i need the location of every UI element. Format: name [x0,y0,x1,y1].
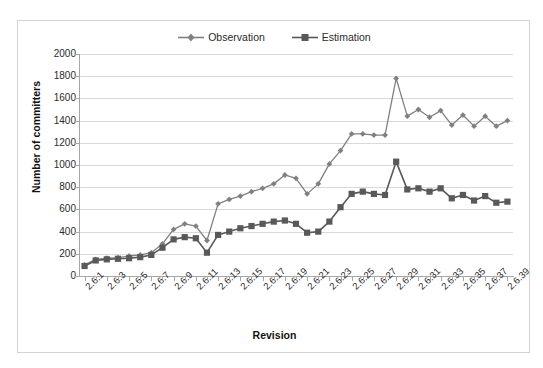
y-tick-label: 400 [36,227,76,237]
data-point [460,192,466,198]
data-point [326,219,332,225]
data-point [137,254,143,260]
series-estimation [81,159,510,270]
data-point [404,186,410,192]
y-tick-label: 200 [36,249,76,259]
x-tick-mark [274,277,275,281]
chart-legend: Observation Estimation [18,29,531,43]
data-point [382,132,388,138]
square-marker-icon [292,32,318,41]
x-tick-mark [430,277,431,281]
data-point [81,263,87,269]
data-point [182,221,188,227]
data-point [404,113,410,119]
x-tick-mark [474,277,475,281]
legend-item-estimation: Estimation [292,30,371,43]
data-point [482,193,488,199]
x-tick-mark [318,277,319,281]
data-point [426,189,432,195]
data-point [371,191,377,197]
x-tick-mark [229,277,230,281]
data-point [504,199,510,205]
data-point [371,132,377,138]
x-tick-mark [185,277,186,281]
x-axis-title: Revision [18,329,531,341]
y-tick-label: 2000 [36,49,76,59]
data-point [415,185,421,191]
x-tick-mark [296,277,297,281]
data-point [226,229,232,235]
x-tick-mark [341,277,342,281]
data-point [148,252,154,258]
y-tick-label: 1200 [36,138,76,148]
y-tick-label: 1000 [36,160,76,170]
data-point [271,219,277,225]
y-tick-label: 1800 [36,71,76,81]
data-point [170,236,176,242]
data-point [360,189,366,195]
data-point [360,131,366,137]
y-tick-label: 600 [36,204,76,214]
data-point [159,245,165,251]
data-point [282,217,288,223]
data-point [471,197,477,203]
data-point [393,76,399,82]
data-point [349,191,355,197]
data-point [315,229,321,235]
data-point [237,225,243,231]
chart-frame: Observation Estimation 02004006008001000… [17,20,530,353]
data-point [449,195,455,201]
x-tick-mark [496,277,497,281]
chart-screenshot: Observation Estimation 02004006008001000… [0,0,543,368]
data-point [304,230,310,236]
x-tick-mark [140,277,141,281]
data-point [182,234,188,240]
data-point [215,232,221,238]
y-tick-label: 1600 [36,93,76,103]
x-tick-mark [385,277,386,281]
x-tick-mark [452,277,453,281]
data-point [93,257,99,263]
y-tick-label: 0 [36,271,76,281]
data-point [260,185,266,191]
data-point [193,235,199,241]
data-point [293,221,299,227]
x-tick-mark [162,277,163,281]
legend-label-observation: Observation [208,31,265,43]
data-point [249,189,255,195]
data-point [226,197,232,203]
data-point [115,256,121,262]
data-point [204,250,210,256]
data-point [493,200,499,206]
data-point [215,201,221,207]
y-tick-label: 800 [36,182,76,192]
top-caption-fragment [18,0,518,10]
y-tick-label: 1400 [36,116,76,126]
legend-label-estimation: Estimation [322,31,371,43]
x-tick-mark [251,277,252,281]
data-point [337,204,343,210]
data-point [248,223,254,229]
data-point [393,159,399,165]
series-observation [82,76,511,268]
data-point [104,256,110,262]
x-tick-mark [363,277,364,281]
data-point [237,193,243,199]
data-point [382,192,388,198]
diamond-marker-icon [178,32,204,41]
x-tick-mark [118,277,119,281]
series-line [85,78,508,264]
x-tick-mark [207,277,208,281]
x-tick-mark [407,277,408,281]
legend-item-observation: Observation [178,30,265,43]
data-point [126,255,132,261]
data-point [260,221,266,227]
x-tick-mark [96,277,97,281]
y-axis-title: Number of committers [30,67,42,207]
data-series-layer [79,54,513,276]
data-point [505,118,511,124]
data-point [438,185,444,191]
plot-area: 2.6.12.6.32.6.52.6.72.6.92.6.112.6.132.6… [79,54,513,276]
